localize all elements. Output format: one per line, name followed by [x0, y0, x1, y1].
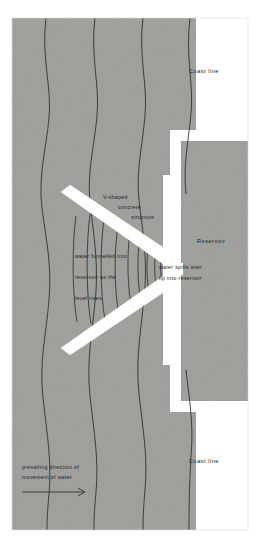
- label-funnel-line-3: level rises: [75, 295, 102, 301]
- label-spill-line-2: lip into reservoir: [159, 275, 202, 281]
- label-funnel-line-2: reservoir as the: [75, 274, 116, 280]
- label-structure-line-2: concrete: [118, 204, 141, 210]
- coastal-reservoir-diagram: Coast line Coast line Reservoir V-shaped…: [0, 0, 260, 546]
- label-reservoir: Reservoir: [197, 238, 225, 244]
- reservoir-texture: [181, 141, 248, 401]
- label-coast-line-top: Coast line: [189, 68, 219, 74]
- label-coast-line-bottom: Coast line: [189, 458, 219, 464]
- diagram-canvas: Coast line Coast line Reservoir V-shaped…: [0, 0, 260, 546]
- label-funnel-line-1: water funnelled into: [75, 253, 127, 259]
- label-flow-line-2: movement of water: [22, 474, 72, 480]
- label-structure-line-1: V-shaped: [103, 194, 128, 200]
- label-spill-line-1: water spills over: [159, 264, 202, 270]
- label-structure-line-3: structure: [131, 214, 154, 220]
- label-flow-line-1: prevailing direction of: [22, 464, 79, 470]
